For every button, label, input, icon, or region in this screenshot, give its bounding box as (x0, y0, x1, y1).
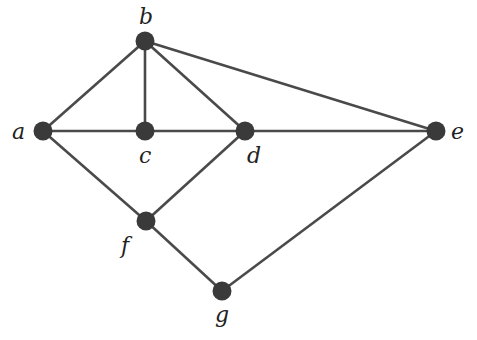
node-c (136, 122, 155, 141)
node-label-c: c (139, 143, 151, 168)
node-d (236, 122, 255, 141)
node-label-a: a (12, 119, 25, 144)
edge-a-b (43, 41, 145, 131)
edge-b-e (145, 41, 436, 131)
edge-d-f (146, 131, 245, 221)
edge-f-g (146, 221, 222, 291)
nodes (34, 32, 446, 301)
node-b (136, 32, 155, 51)
node-label-d: d (247, 143, 261, 168)
node-label-f: f (119, 233, 133, 258)
node-g (213, 282, 232, 301)
node-f (137, 212, 156, 231)
node-e (427, 122, 446, 141)
graph-diagram: abcdefg (0, 0, 477, 340)
node-a (34, 122, 53, 141)
edges (43, 41, 436, 291)
node-label-b: b (139, 4, 153, 29)
node-label-g: g (215, 302, 229, 327)
edge-a-f (43, 131, 146, 221)
node-label-e: e (451, 119, 464, 144)
edge-b-d (145, 41, 245, 131)
